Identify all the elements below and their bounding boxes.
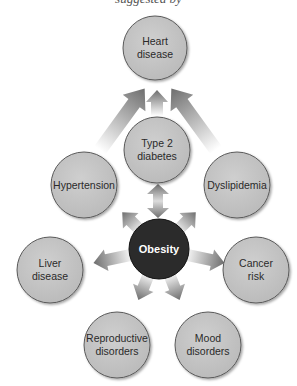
label-type2-diabetes: Type 2 diabetes [124, 117, 190, 183]
label-reproductive-disorders: Reproductive disorders [84, 312, 150, 378]
label-heart-disease: Heart disease [123, 16, 187, 80]
label-mood-disorders: Mood disorders [175, 312, 241, 378]
label-hypertension: Hypertension [51, 152, 117, 218]
label-cancer-risk: Cancer risk [223, 237, 289, 303]
arrow-diabetes-to-heart [146, 90, 168, 116]
label-dyslipidemia: Dyslipidemia [204, 152, 270, 218]
arrow-obesity-diabetes-bidirectional [147, 184, 169, 218]
label-obesity: Obesity [129, 219, 189, 279]
label-liver-disease: Liver disease [17, 237, 83, 303]
